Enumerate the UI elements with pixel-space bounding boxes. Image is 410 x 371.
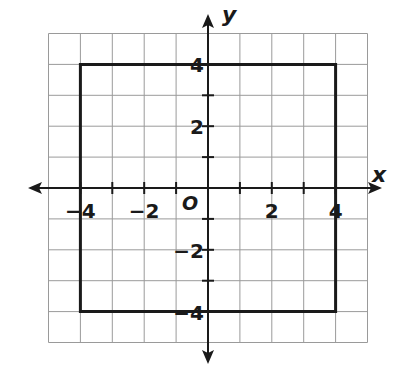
y-axis-label: y (222, 2, 238, 27)
x-tick-label: −2 (129, 199, 160, 223)
y-tick-label: 2 (190, 115, 204, 139)
x-tick-label: 2 (265, 199, 279, 223)
coordinate-plane: −4−22442−2−4 x y O (0, 0, 410, 371)
x-tick-label: 4 (329, 199, 343, 223)
y-tick-label: −2 (173, 239, 204, 263)
x-tick-label: −4 (65, 199, 96, 223)
y-tick-label: −4 (173, 301, 204, 325)
x-axis-label: x (371, 162, 387, 187)
y-tick-label: 4 (190, 53, 204, 77)
origin-label: O (182, 192, 198, 214)
